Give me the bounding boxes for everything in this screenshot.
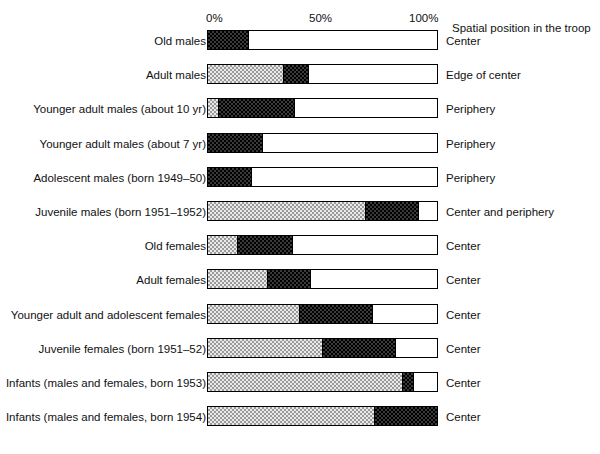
row-label: Adult females: [0, 273, 206, 287]
bar-segment-light: [208, 305, 300, 323]
row-label: Infants (males and females, born 1954): [0, 410, 206, 424]
bar-segment-white: [311, 270, 437, 288]
bar-segment-dark: [284, 65, 309, 83]
stacked-bar: [207, 98, 438, 118]
chart-rows: Old malesCenterAdult malesEdge of center…: [0, 0, 600, 454]
bar-segment-white: [396, 339, 437, 357]
table-row: Adult femalesCenter: [0, 269, 600, 291]
row-position-label: Periphery: [446, 171, 495, 185]
row-position-label: Periphery: [446, 102, 495, 116]
bar-segment-dark: [403, 373, 414, 391]
stacked-bar: [207, 167, 438, 187]
bar-segment-white: [309, 65, 437, 83]
row-label: Old females: [0, 239, 206, 253]
row-position-label: Periphery: [446, 137, 495, 151]
row-position-label: Center: [446, 308, 481, 322]
stacked-bar: [207, 338, 438, 358]
bar-segment-light: [208, 99, 219, 117]
row-label: Old males: [0, 34, 206, 48]
row-position-label: Center and periphery: [446, 205, 554, 219]
table-row: Younger adult males (about 10 yr)Periphe…: [0, 98, 600, 120]
bar-segment-light: [208, 65, 284, 83]
table-row: Juvenile females (born 1951–52)Center: [0, 338, 600, 360]
bar-segment-white: [373, 305, 437, 323]
bar-segment-white: [249, 31, 437, 49]
stacked-bar: [207, 30, 438, 50]
row-label: Juvenile males (born 1951–1952): [0, 205, 206, 219]
stacked-bar: [207, 304, 438, 324]
stacked-bar: [207, 406, 438, 426]
bar-segment-dark: [219, 99, 295, 117]
stacked-bar: [207, 133, 438, 153]
stacked-bar: [207, 201, 438, 221]
table-row: Infants (males and females, born 1953)Ce…: [0, 372, 600, 394]
bar-segment-dark: [366, 202, 419, 220]
bar-segment-white: [414, 373, 437, 391]
bar-segment-light: [208, 236, 238, 254]
row-position-label: Center: [446, 273, 481, 287]
row-position-label: Edge of center: [446, 68, 521, 82]
row-position-label: Center: [446, 376, 481, 390]
bar-segment-white: [293, 236, 437, 254]
row-label: Younger adult males (about 10 yr): [0, 102, 206, 116]
stacked-bar: [207, 269, 438, 289]
bar-segment-dark: [375, 407, 437, 425]
bar-segment-white: [263, 134, 437, 152]
bar-segment-white: [295, 99, 437, 117]
bar-segment-light: [208, 270, 268, 288]
stacked-bar: [207, 235, 438, 255]
table-row: Younger adult and adolescent femalesCent…: [0, 304, 600, 326]
row-position-label: Center: [446, 342, 481, 356]
bar-segment-light: [208, 373, 403, 391]
bar-segment-dark: [208, 134, 263, 152]
stacked-bar: [207, 372, 438, 392]
table-row: Juvenile males (born 1951–1952)Center an…: [0, 201, 600, 223]
row-label: Juvenile females (born 1951–52): [0, 342, 206, 356]
table-row: Adolescent males (born 1949–50)Periphery: [0, 167, 600, 189]
table-row: Younger adult males (about 7 yr)Peripher…: [0, 133, 600, 155]
bar-segment-dark: [208, 168, 252, 186]
bar-segment-dark: [238, 236, 293, 254]
table-row: Old femalesCenter: [0, 235, 600, 257]
bar-segment-light: [208, 339, 323, 357]
row-position-label: Center: [446, 410, 481, 424]
table-row: Old malesCenter: [0, 30, 600, 52]
bar-segment-dark: [323, 339, 396, 357]
row-position-label: Center: [446, 34, 481, 48]
table-row: Infants (males and females, born 1954)Ce…: [0, 406, 600, 428]
bar-segment-dark: [208, 31, 249, 49]
chart-root: 0% 50% 100% Spatial position in the troo…: [0, 0, 600, 454]
row-position-label: Center: [446, 239, 481, 253]
table-row: Adult malesEdge of center: [0, 64, 600, 86]
stacked-bar: [207, 64, 438, 84]
bar-segment-white: [419, 202, 437, 220]
bar-segment-dark: [300, 305, 373, 323]
bar-segment-light: [208, 407, 375, 425]
bar-segment-dark: [268, 270, 312, 288]
row-label: Younger adult and adolescent females: [0, 308, 206, 322]
row-label: Younger adult males (about 7 yr): [0, 137, 206, 151]
row-label: Adult males: [0, 68, 206, 82]
bar-segment-light: [208, 202, 366, 220]
row-label: Infants (males and females, born 1953): [0, 376, 206, 390]
bar-segment-white: [252, 168, 437, 186]
row-label: Adolescent males (born 1949–50): [0, 171, 206, 185]
